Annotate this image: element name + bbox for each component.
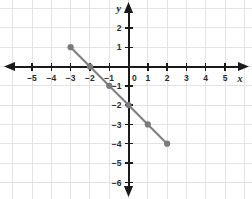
x-tick-label: 1 — [145, 73, 150, 83]
x-tick-label: −3 — [66, 73, 76, 83]
x-tick-label: 2 — [165, 73, 170, 83]
y-axis-label: y — [116, 3, 122, 14]
x-tick-label: 4 — [203, 73, 208, 83]
y-tick-label: −4 — [112, 139, 122, 149]
y-tick-label: −6 — [112, 178, 122, 188]
x-tick-label: −2 — [85, 73, 95, 83]
data-point — [164, 141, 170, 147]
graph-canvas: −5−4−3−2−1012345 21−1−2−3−4−5−6 x y — [0, 0, 252, 199]
y-tick-label: 1 — [117, 42, 122, 52]
chart-background — [0, 0, 252, 199]
data-point — [106, 83, 112, 89]
data-point — [87, 63, 93, 69]
x-axis-label: x — [237, 73, 243, 84]
data-point — [145, 121, 151, 127]
x-tick-label: 0 — [132, 73, 137, 83]
x-tick-label: −4 — [46, 73, 56, 83]
x-tick-label: 3 — [184, 73, 189, 83]
coordinate-plane-graph: −5−4−3−2−1012345 21−1−2−3−4−5−6 x y — [0, 0, 252, 199]
y-tick-label: 2 — [117, 23, 122, 33]
y-tick-label: −2 — [112, 100, 122, 110]
data-point — [68, 44, 74, 50]
x-tick-label: −5 — [27, 73, 37, 83]
x-tick-label: 5 — [223, 73, 228, 83]
y-tick-label: −5 — [112, 158, 122, 168]
y-tick-label: −3 — [112, 120, 122, 130]
data-point — [125, 102, 131, 108]
